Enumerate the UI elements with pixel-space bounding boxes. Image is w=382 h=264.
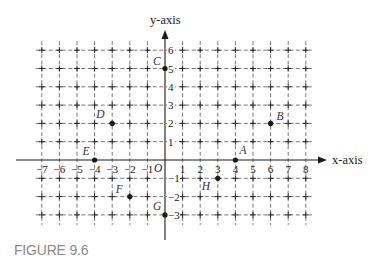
y-axis-arrow-icon — [162, 30, 169, 39]
point-label: H — [201, 180, 211, 192]
point-marker-icon — [110, 121, 115, 126]
x-tick-label: 8 — [303, 163, 309, 175]
y-tick-label: 4 — [168, 81, 174, 93]
point-label: F — [115, 183, 124, 195]
x-tick-label: 4 — [233, 163, 239, 175]
x-tick-label: −2 — [124, 163, 136, 175]
y-axis-label: y-axis — [150, 13, 181, 27]
y-tick-label: −3 — [168, 209, 180, 221]
point-marker-icon — [268, 121, 273, 126]
axes: x-axis y-axis O — [16, 13, 363, 240]
x-tick-label: 2 — [197, 163, 203, 175]
x-tick-label: 1 — [180, 163, 186, 175]
point-h: H — [201, 176, 221, 193]
point-marker-icon — [127, 194, 132, 199]
x-axis-label-rest: -axis — [338, 153, 362, 167]
point-label: B — [277, 110, 284, 122]
point-marker-icon — [162, 212, 167, 217]
y-axis-label-rest: -axis — [156, 13, 180, 27]
y-tick-label: 2 — [168, 117, 174, 129]
origin-label: O — [154, 162, 163, 174]
x-tick-label: 7 — [285, 163, 291, 175]
x-axis-arrow-icon — [318, 157, 327, 164]
y-tick-label: 6 — [168, 44, 174, 56]
point-label: D — [95, 108, 105, 120]
y-tick-label: 1 — [168, 136, 174, 148]
point-marker-icon — [162, 66, 167, 71]
point-marker-icon — [215, 176, 220, 181]
point-label: C — [153, 55, 161, 67]
x-tick-label: 5 — [250, 163, 256, 175]
x-tick-label: −6 — [54, 163, 66, 175]
x-tick-label: −7 — [36, 163, 48, 175]
x-tick-label: −4 — [89, 163, 101, 175]
x-axis-label: x-axis — [332, 153, 363, 167]
x-tick-label: −1 — [142, 163, 154, 175]
figure-caption: FIGURE 9.6 — [14, 242, 88, 258]
y-tick-label: −1 — [168, 172, 180, 184]
point-label: A — [238, 144, 247, 156]
y-tick-label: −2 — [168, 191, 180, 203]
coordinate-plane-figure: x-axis y-axis O −7−6−5−4−3−2−11234567865… — [0, 0, 382, 264]
y-tick-label: 5 — [168, 63, 174, 75]
point-marker-icon — [92, 157, 97, 162]
x-tick-label: 3 — [215, 163, 221, 175]
point-label: E — [82, 145, 90, 157]
point-marker-icon — [233, 157, 238, 162]
x-tick-label: −5 — [71, 163, 83, 175]
x-tick-label: −3 — [106, 163, 118, 175]
y-tick-label: 3 — [168, 99, 174, 111]
point-label: G — [153, 200, 162, 212]
x-tick-label: 6 — [268, 163, 274, 175]
